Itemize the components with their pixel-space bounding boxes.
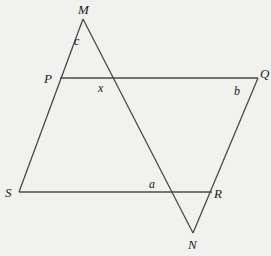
vertex-label-s: S	[5, 185, 12, 200]
vertex-label-m: M	[77, 2, 90, 17]
angle-label-b: b	[234, 84, 240, 98]
angle-label-c: c	[74, 34, 80, 48]
vertex-label-p: P	[43, 71, 52, 86]
vertex-label-q: Q	[260, 66, 270, 81]
vertex-label-n: N	[187, 237, 198, 252]
line-mn	[83, 19, 193, 233]
angle-label-a: a	[149, 177, 155, 191]
line-qn	[193, 78, 258, 233]
vertex-label-r: R	[213, 186, 222, 201]
angle-label-x: x	[97, 81, 104, 95]
geometry-diagram: M P Q S R N c x b a	[0, 0, 271, 256]
